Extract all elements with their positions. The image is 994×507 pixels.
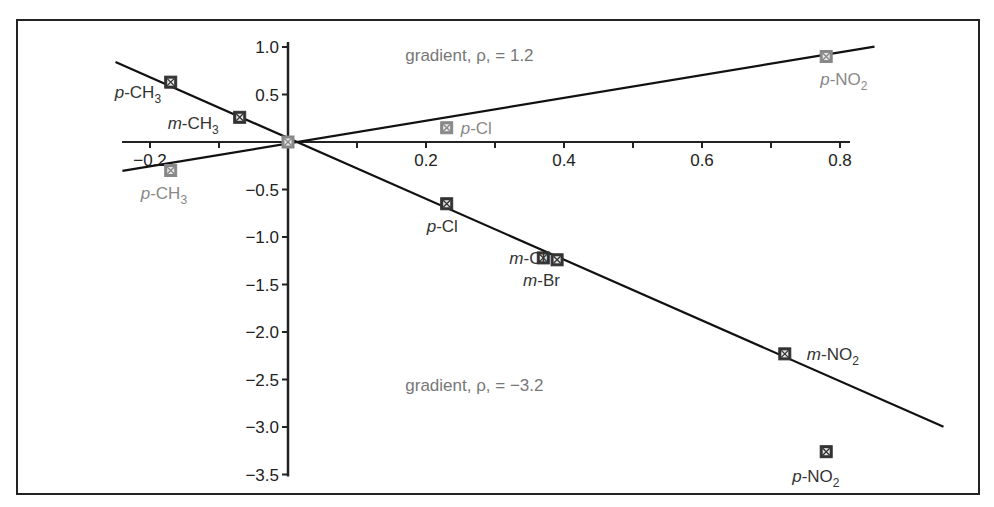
- data-marker: [165, 76, 177, 88]
- y-tick-label: −2.0: [245, 323, 279, 342]
- y-tick-label: −2.5: [245, 371, 279, 390]
- data-marker: [820, 446, 832, 458]
- data-points: p-CH3m-CH3p-Clm-Clm-Brm-NO2p-NO2p-CH3p-C…: [114, 51, 868, 490]
- point-label: m-NO2: [807, 345, 859, 368]
- point-label: m-Cl: [509, 249, 545, 268]
- gradient-annotation-2: gradient, ρ, = −3.2: [405, 376, 543, 395]
- data-marker: [441, 198, 453, 210]
- data-marker: [779, 348, 791, 360]
- x-tick-label: 0.8: [828, 151, 852, 170]
- point-label: p-NO2: [819, 70, 868, 93]
- point-label: p-CH3: [114, 83, 162, 106]
- point-label: p-Cl: [460, 119, 492, 138]
- gradient-annotation-1: gradient, ρ, = 1.2: [405, 46, 533, 65]
- data-marker: [441, 122, 453, 134]
- y-tick-label: −3.0: [245, 418, 279, 437]
- data-marker: [551, 254, 563, 266]
- y-tick-label: 1.0: [255, 38, 279, 57]
- y-tick-label: −1.0: [245, 228, 279, 247]
- data-marker: [165, 165, 177, 177]
- data-marker: [234, 111, 246, 123]
- fit-lines: [116, 47, 944, 427]
- point-label: m-CH3: [168, 114, 219, 137]
- x-tick-label: 0.2: [414, 151, 438, 170]
- x-tick-label: 0.6: [690, 151, 714, 170]
- hammett-plot: −0.20.20.40.60.81.00.5−0.5−1.0−1.5−2.0−2…: [0, 0, 994, 507]
- point-label: p-CH3: [140, 184, 188, 207]
- y-tick-label: −0.5: [245, 181, 279, 200]
- point-label: p-NO2: [791, 467, 840, 490]
- point-label: m-Br: [523, 271, 560, 290]
- point-label: p-Cl: [426, 217, 458, 236]
- axes: −0.20.20.40.60.81.00.5−0.5−1.0−1.5−2.0−2…: [122, 38, 852, 485]
- y-tick-label: 0.5: [255, 86, 279, 105]
- data-marker: [820, 51, 832, 63]
- data-marker: [282, 136, 294, 148]
- y-tick-label: −3.5: [245, 466, 279, 485]
- x-tick-label: 0.4: [552, 151, 576, 170]
- chart-frame: [17, 20, 979, 494]
- y-tick-label: −1.5: [245, 276, 279, 295]
